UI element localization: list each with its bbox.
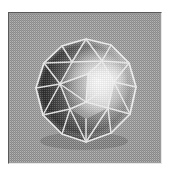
screenshot-root: Shaded Polyhedron Render [0, 0, 170, 176]
geodesic-sphere-wireframe [10, 14, 160, 162]
render-frame [8, 12, 162, 164]
render-canvas[interactable] [10, 14, 160, 162]
specular-bloom [82, 59, 130, 101]
page-title: Shaded Polyhedron Render [0, 21, 1, 22]
render-viewport[interactable] [10, 14, 160, 162]
